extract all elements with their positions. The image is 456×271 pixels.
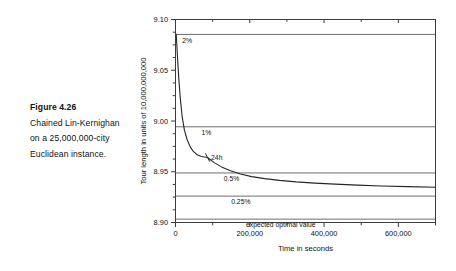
reference-line-label: 0.5% xyxy=(224,175,240,182)
gridlines-group xyxy=(176,34,436,219)
reference-line-label: 1% xyxy=(202,129,212,136)
data-curve-group xyxy=(176,34,435,187)
reference-line-label: 0.25% xyxy=(231,198,250,205)
line-chart: 24h 0200,000400,000600,0008.908.959.009.… xyxy=(0,0,456,271)
plot-frame xyxy=(176,20,436,223)
annotations-group: 24h xyxy=(205,153,222,161)
x-tick-label: 0 xyxy=(173,229,177,238)
x-tick-label: 600,000 xyxy=(385,229,412,238)
y-tick-label: 9.10 xyxy=(154,15,168,24)
axis-labels-group: 0200,000400,000600,0008.908.959.009.059.… xyxy=(139,15,412,252)
reference-line-label: expected optimal value xyxy=(246,221,316,229)
reference-line-label: 2% xyxy=(182,37,192,44)
y-tick-label: 9.00 xyxy=(154,117,168,126)
x-tick-label: 400,000 xyxy=(311,229,338,238)
y-axis-title: Tour length in units of 10,000,000,000 xyxy=(139,57,148,184)
x-axis-title: Time in seconds xyxy=(278,244,333,253)
y-tick-label: 8.95 xyxy=(154,167,168,176)
x-tick-label: 200,000 xyxy=(236,229,263,238)
y-tick-label: 9.05 xyxy=(154,66,168,75)
y-tick-label: 8.90 xyxy=(154,218,168,227)
annotation-label: 24h xyxy=(211,154,223,161)
plot-border xyxy=(176,20,436,223)
figure-plot-area: 24h 0200,000400,000600,0008.908.959.009.… xyxy=(0,0,456,271)
tour-length-curve xyxy=(176,34,435,187)
